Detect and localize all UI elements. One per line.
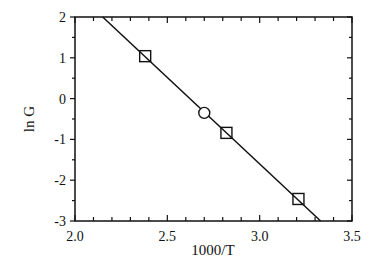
x-tick-label: 3.0 (251, 229, 269, 244)
y-tick-label: -1 (54, 132, 66, 147)
plot-frame (75, 17, 352, 221)
y-axis-label: ln G (21, 106, 37, 132)
y-axis-ticks: 210-1-2-3 (54, 10, 352, 229)
x-axis-ticks: 2.02.53.03.5 (66, 17, 361, 244)
x-tick-label: 2.5 (159, 229, 177, 244)
fit-line (103, 17, 321, 221)
x-axis-label: 1000/T (191, 242, 234, 258)
y-tick-label: -3 (54, 214, 66, 229)
y-tick-label: 1 (59, 51, 66, 66)
square-marker (293, 193, 304, 204)
x-tick-label: 2.0 (66, 229, 84, 244)
y-tick-label: 2 (59, 10, 66, 25)
x-tick-label: 3.5 (343, 229, 361, 244)
y-tick-label: 0 (59, 92, 66, 107)
chart: 2.02.53.03.5 210-1-2-3 1000/T ln G (0, 0, 379, 277)
y-tick-label: -2 (54, 173, 66, 188)
circle-marker (199, 107, 210, 118)
